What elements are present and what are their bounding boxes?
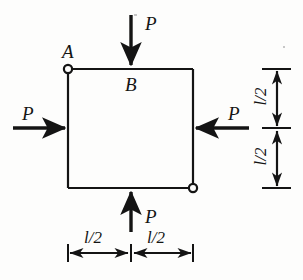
dimension-label-bottom-left: l/2 [84,229,102,246]
dimension-label-right-upper: l/2 [252,84,269,110]
force-label-right: P [228,104,240,123]
force-label-bottom: P [145,207,157,226]
node-label-a: A [62,42,74,61]
scan-artifact [283,46,285,48]
pin-joint-a-icon [64,65,72,73]
force-label-top: P [145,14,157,33]
figure-container: A B P P P P l/2 l/2 l/2 l/2 [0,0,303,280]
scan-artifact [134,14,137,16]
force-label-left: P [22,104,34,123]
dimension-label-bottom-right: l/2 [147,229,165,246]
pin-joint-c-icon [189,184,197,192]
node-label-b: B [125,75,137,94]
dimension-label-right-lower: l/2 [252,144,269,170]
